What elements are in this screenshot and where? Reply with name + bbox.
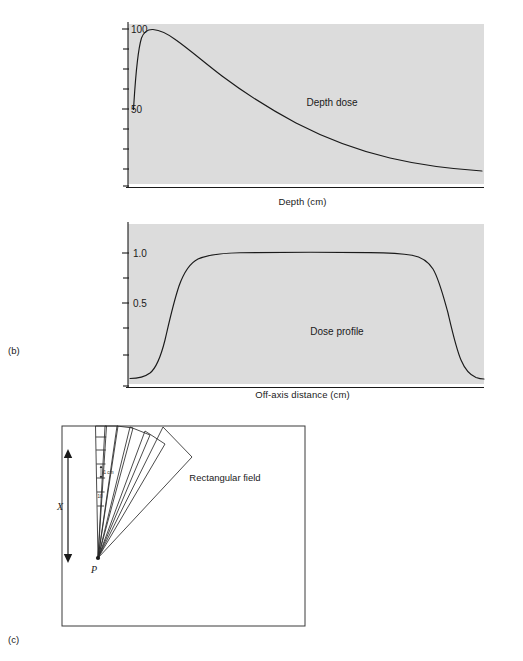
panel-letter-b: (b) <box>8 345 20 356</box>
rectangular-field-diagram: 1 cm 10 X P Rectangular field <box>0 418 523 643</box>
panel-depth-dose: 100 50 Depth dose <box>0 18 523 196</box>
figure-page: 100 50 Depth dose Depth (cm) 1.0 0.5 <box>0 0 523 661</box>
dose-profile-inline-label: Dose profile <box>310 326 364 337</box>
panel-rectangular-field: 1 cm 10 X P Rectangular field <box>0 418 523 643</box>
dose-profile-plot: 1.0 0.5 Dose profile <box>0 218 523 396</box>
panel-dose-profile: 1.0 0.5 Dose profile <box>0 218 523 396</box>
depth-axis-caption: Depth (cm) <box>120 196 485 207</box>
dose-profile-ytick-1p0: 1.0 <box>133 248 147 259</box>
apex-point-marker <box>96 556 100 560</box>
depth-dose-ytick-50: 50 <box>131 104 143 115</box>
depth-dose-inline-label: Depth dose <box>306 97 358 108</box>
apex-point-label: P <box>90 564 97 575</box>
dose-profile-plot-area <box>128 224 484 384</box>
dose-profile-ytick-0p5: 0.5 <box>133 298 147 309</box>
field-width-label: X <box>56 501 64 512</box>
depth-dose-ytick-100: 100 <box>131 24 148 35</box>
sector-width-label: 1 cm <box>104 470 114 475</box>
field-boundary-rect <box>62 426 305 626</box>
depth-dose-plot: 100 50 Depth dose <box>0 18 523 196</box>
offaxis-axis-caption: Off-axis distance (cm) <box>120 389 485 400</box>
sector-length-label: 10 <box>98 494 104 499</box>
panel-letter-c: (c) <box>8 634 19 645</box>
rectangular-field-label: Rectangular field <box>189 472 260 483</box>
